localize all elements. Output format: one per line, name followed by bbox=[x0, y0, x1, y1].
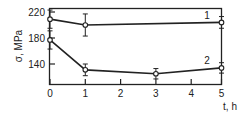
y-tick-label: 220 bbox=[28, 7, 45, 18]
y-axis-label: σ, MPa bbox=[13, 29, 24, 62]
x-tick-label: 2 bbox=[118, 88, 124, 99]
x-tick-label: 3 bbox=[153, 88, 159, 99]
series-2-label: 2 bbox=[204, 55, 210, 66]
data-point-marker bbox=[83, 23, 88, 28]
x-tick-label: 0 bbox=[47, 88, 53, 99]
data-point-marker bbox=[48, 38, 53, 43]
data-point-marker bbox=[219, 66, 224, 71]
series-2 bbox=[48, 31, 225, 79]
data-point-marker bbox=[83, 68, 88, 73]
x-tick-label: 4 bbox=[188, 88, 194, 99]
x-axis-ticks: 012345 bbox=[47, 79, 225, 99]
x-axis-label: t, h bbox=[223, 101, 237, 112]
y-tick-label: 140 bbox=[28, 59, 45, 70]
y-tick-label: 180 bbox=[28, 33, 45, 44]
series-1 bbox=[48, 10, 225, 36]
x-tick-label: 5 bbox=[219, 88, 225, 99]
chart: 140180220 012345 σ, MPa t, h 1 2 bbox=[0, 0, 248, 116]
data-point-marker bbox=[154, 71, 159, 76]
x-tick-label: 1 bbox=[83, 88, 89, 99]
data-series bbox=[48, 10, 225, 79]
data-point-marker bbox=[219, 20, 224, 25]
series-1-label: 1 bbox=[204, 10, 210, 21]
data-point-marker bbox=[48, 17, 53, 22]
